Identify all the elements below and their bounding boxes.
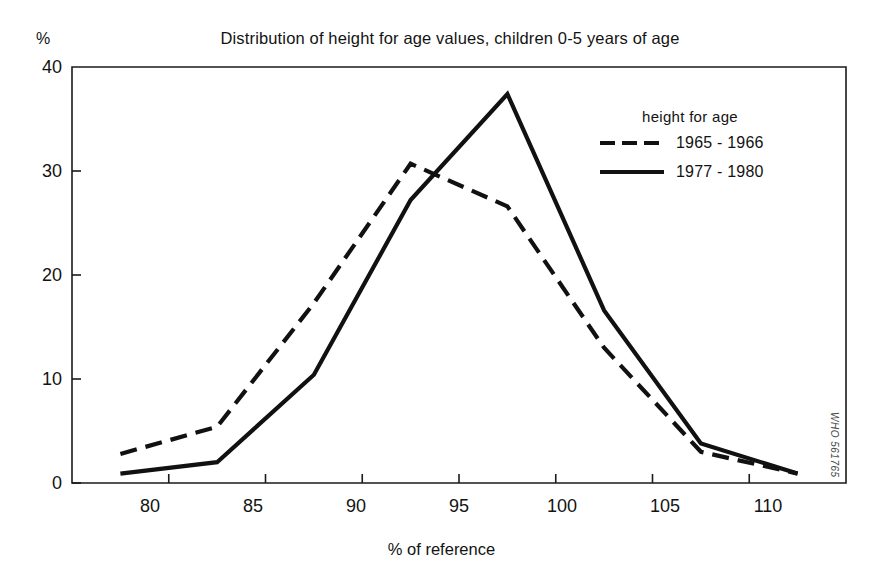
legend-item-1965-1966: 1965 - 1966	[600, 134, 850, 152]
chart-legend: height for age 1965 - 1966 1977 - 1980	[600, 108, 850, 192]
legend-title: height for age	[642, 108, 850, 125]
chart-figure: Distribution of height for age values, c…	[0, 0, 883, 578]
legend-item-1977-1980: 1977 - 1980	[600, 163, 850, 181]
axis-ticks	[72, 171, 749, 483]
legend-label-1965-1966: 1965 - 1966	[676, 134, 764, 152]
legend-label-1977-1980: 1977 - 1980	[676, 163, 764, 181]
legend-swatch-dashed-icon	[600, 141, 664, 145]
source-watermark: WHO 561765	[829, 412, 840, 478]
plot-area	[0, 0, 883, 578]
series-line-1965-1966	[120, 164, 797, 474]
legend-swatch-solid-icon	[600, 170, 664, 174]
